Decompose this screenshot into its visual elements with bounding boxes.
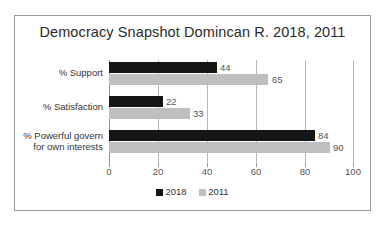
- legend-item-2011[interactable]: 2011: [199, 186, 228, 197]
- xtick-label-20: 20: [153, 166, 164, 177]
- category-label-satisfaction-line-1: % Satisfaction: [43, 101, 103, 112]
- legend-label-2018: 2018: [165, 186, 186, 197]
- bar-value-2018-support: 44: [220, 62, 231, 73]
- xtick-label-80: 80: [300, 166, 311, 177]
- bar-2018-powerful-govern[interactable]: [109, 130, 315, 141]
- bar-value-2011-powerful-govern: 90: [333, 142, 344, 153]
- legend-swatch-icon-2018: [156, 189, 163, 196]
- chart-title: Democracy Snapshot Domincan R. 2018, 201…: [15, 24, 370, 40]
- category-label-powerful-govern-line-2: for own interests: [23, 141, 103, 152]
- bar-value-2011-support: 65: [272, 74, 283, 85]
- xtick-label-0: 0: [106, 166, 111, 177]
- xtick-label-60: 60: [251, 166, 262, 177]
- bar-value-2011-satisfaction: 33: [193, 108, 204, 119]
- category-label-powerful-govern-line-1: % Powerful govern: [23, 130, 103, 141]
- legend-item-2018[interactable]: 2018: [156, 186, 186, 197]
- bar-2018-satisfaction[interactable]: [109, 96, 163, 107]
- bar-value-2018-powerful-govern: 84: [318, 130, 329, 141]
- gridline-100: [353, 60, 354, 163]
- legend-swatch-icon-2011: [199, 189, 206, 196]
- category-label-support: % Support: [59, 67, 103, 78]
- bar-2011-support[interactable]: [109, 74, 268, 85]
- plot-area: % Support 44 65 % Satisfaction 22 33 % P…: [109, 60, 354, 163]
- bar-2011-powerful-govern[interactable]: [109, 142, 330, 153]
- legend-label-2011: 2011: [208, 186, 228, 197]
- bar-2011-satisfaction[interactable]: [109, 108, 190, 119]
- xtick-label-40: 40: [202, 166, 213, 177]
- chart-legend: 2018 2011: [15, 186, 370, 197]
- chart-frame: Democracy Snapshot Domincan R. 2018, 201…: [14, 15, 371, 211]
- xtick-label-100: 100: [345, 166, 361, 177]
- category-label-support-line-1: % Support: [59, 67, 103, 78]
- bar-2018-support[interactable]: [109, 62, 217, 73]
- bar-value-2018-satisfaction: 22: [166, 96, 177, 107]
- category-label-powerful-govern: % Powerful govern for own interests: [23, 130, 103, 152]
- category-label-satisfaction: % Satisfaction: [43, 101, 103, 112]
